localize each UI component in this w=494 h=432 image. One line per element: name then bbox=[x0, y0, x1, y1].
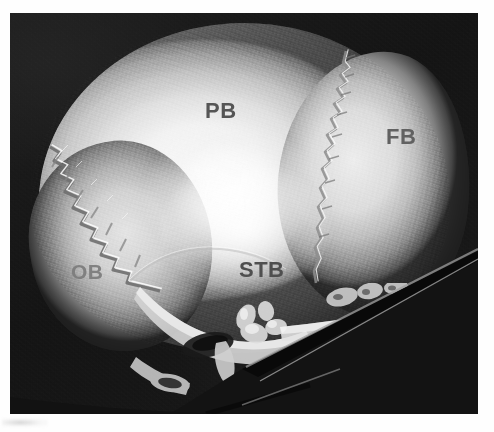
skull-render: PB FB OB STB bbox=[10, 13, 478, 414]
figure-page: PB FB OB STB bbox=[0, 0, 494, 432]
label-frontal-bone: FB bbox=[386, 126, 416, 148]
label-squamous-temporal-bone: STB bbox=[239, 259, 285, 281]
label-occipital-bone: OB bbox=[71, 261, 104, 282]
scan-artifact-smudge bbox=[2, 418, 48, 427]
ct-scan-image: PB FB OB STB bbox=[10, 13, 478, 414]
label-parietal-bone: PB bbox=[205, 100, 237, 122]
